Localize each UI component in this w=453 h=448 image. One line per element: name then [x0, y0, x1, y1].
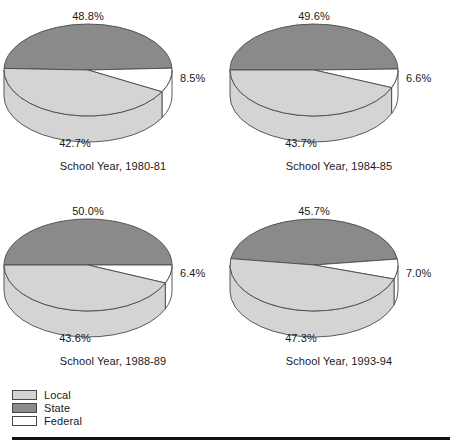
legend-swatch-local: [12, 390, 37, 400]
legend-label-state: State: [44, 402, 70, 414]
legend-item-federal: Federal: [12, 414, 212, 427]
pie-chart-caption: School Year, 1980-81: [0, 160, 226, 172]
legend-label-federal: Federal: [44, 415, 82, 427]
pie-slice-top-state: [230, 24, 398, 70]
pie-slice-top-state: [231, 219, 397, 265]
slice-percent-label-state: 48.8%: [0, 10, 176, 22]
chart-legend: LocalStateFederal: [12, 388, 212, 427]
pie-chart-panel: 45.7%7.0%47.3%School Year, 1993-94: [226, 195, 452, 390]
slice-percent-label-state: 50.0%: [0, 205, 176, 217]
legend-swatch-federal: [12, 416, 37, 426]
legend-label-local: Local: [44, 389, 71, 401]
pie-chart-panel: 49.6%6.6%43.7%School Year, 1984-85: [226, 0, 452, 195]
slice-percent-label-local: 47.3%: [226, 332, 376, 344]
pie-chart-caption: School Year, 1984-85: [226, 160, 452, 172]
pie-chart-figure: 48.8%8.5%42.7%School Year, 1980-8149.6%6…: [0, 0, 453, 448]
slice-percent-label-federal: 6.4%: [180, 267, 205, 279]
legend-item-local: Local: [12, 388, 212, 401]
slice-percent-label-local: 42.7%: [0, 137, 150, 149]
pie-chart-panel: 50.0%6.4%43.6%School Year, 1988-89: [0, 195, 226, 390]
slice-percent-label-local: 43.6%: [0, 332, 150, 344]
slice-percent-label-local: 43.7%: [226, 137, 376, 149]
slice-percent-label-state: 45.7%: [226, 205, 402, 217]
bottom-rule: [12, 437, 450, 440]
legend-swatch-state: [12, 403, 37, 413]
pie-chart-caption: School Year, 1988-89: [0, 355, 226, 367]
legend-item-state: State: [12, 401, 212, 414]
pie-slice-top-state: [4, 24, 172, 70]
slice-percent-label-state: 49.6%: [226, 10, 402, 22]
pie-chart-panel: 48.8%8.5%42.7%School Year, 1980-81: [0, 0, 226, 195]
pie-slice-top-state: [4, 219, 172, 265]
pie-chart-caption: School Year, 1993-94: [226, 355, 452, 367]
slice-percent-label-federal: 6.6%: [406, 72, 431, 84]
slice-percent-label-federal: 7.0%: [406, 267, 431, 279]
slice-percent-label-federal: 8.5%: [180, 72, 205, 84]
